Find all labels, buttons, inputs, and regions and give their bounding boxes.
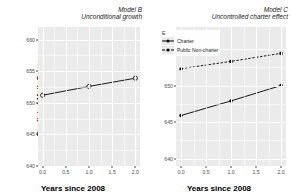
y-axis-tick-mark: [174, 158, 176, 159]
x-axis-tick-label: 0.5: [202, 169, 209, 175]
y-axis-tick-mark: [36, 166, 38, 167]
x-axis-tick-mark: [112, 166, 113, 168]
legend-label-public-non-charter: Public Non-charter: [177, 48, 218, 53]
y-axis-tick-label: 640: [164, 156, 173, 162]
x-axis-tick-mark: [135, 166, 136, 168]
x-axis-tick-mark: [89, 166, 90, 168]
x-axis-tick-label: 1.5: [252, 169, 259, 175]
grid-line-vertical-major: [231, 27, 232, 166]
panel-b-title: Model B: [81, 6, 142, 13]
grid-line-vertical-minor: [244, 27, 245, 166]
y-axis-tick-mark: [174, 122, 176, 123]
grid-line-vertical-minor: [124, 27, 125, 166]
panel-c-subtitle: Uncontrolled charter effect: [212, 13, 288, 20]
x-axis-tick-label: 0.0: [39, 169, 46, 175]
y-axis-tick-mark: [174, 85, 176, 86]
y-axis-tick-label: 645: [26, 131, 35, 137]
grid-line-vertical-major: [66, 27, 67, 166]
x-axis-tick-label: 0.0: [177, 169, 184, 175]
legend-key-dashed-icon: [162, 46, 174, 54]
y-axis-tick-mark: [36, 71, 38, 72]
grid-line-vertical-major: [112, 27, 113, 166]
x-axis-tick-mark: [256, 166, 257, 168]
legend-item-charter[interactable]: Charter: [162, 37, 218, 45]
legend-label-charter: Charter: [177, 39, 194, 44]
x-axis-tick-mark: [181, 166, 182, 168]
grid-line-vertical-minor: [269, 27, 270, 166]
y-axis-tick-mark: [36, 39, 38, 40]
x-axis-tick-mark: [231, 166, 232, 168]
x-axis-tick-mark: [206, 166, 207, 168]
grid-line-vertical-minor: [54, 27, 55, 166]
x-axis-tick-label: 0.5: [62, 169, 69, 175]
panel-c-title-block: Model C Uncontrolled charter effect: [212, 6, 288, 21]
grid-line-vertical-minor: [101, 27, 102, 166]
legend-item-public-non-charter[interactable]: Public Non-charter: [162, 46, 218, 54]
legend-title: E: [162, 31, 218, 36]
figure-root: Model B Unconditional growth Predicted M…: [0, 0, 292, 195]
panel-c-legend: E Charter Public Non-charter: [160, 30, 220, 56]
x-axis-tick-label: 1.0: [85, 169, 92, 175]
y-axis-tick-label: 660: [26, 37, 35, 43]
grid-line-vertical-minor: [77, 27, 78, 166]
panel-b-title-block: Model B Unconditional growth: [81, 6, 142, 21]
panel-c-title: Model C: [212, 6, 288, 13]
panel-b-plot-area: 6406456506556600.00.51.01.52.0: [38, 27, 140, 166]
x-axis-tick-label: 2.0: [277, 169, 284, 175]
grid-line-vertical-major: [281, 27, 282, 166]
grid-line-vertical-major: [89, 27, 90, 166]
y-axis-tick-mark: [36, 134, 38, 135]
y-axis-tick-label: 655: [26, 68, 35, 74]
y-axis-tick-label: 650: [26, 100, 35, 106]
panel-model-b: Model B Unconditional growth Predicted M…: [0, 0, 146, 195]
x-axis-tick-mark: [281, 166, 282, 168]
panel-model-c: Model C Uncontrolled charter effect Pred…: [146, 0, 292, 195]
grid-line-vertical-major: [135, 27, 136, 166]
panel-b-subtitle: Unconditional growth: [81, 13, 142, 20]
grid-line-vertical-major: [43, 27, 44, 166]
x-axis-tick-label: 1.5: [109, 169, 116, 175]
grid-line-vertical-major: [256, 27, 257, 166]
panel-b-x-axis-label: Years since 2008: [0, 184, 146, 193]
x-axis-tick-label: 1.0: [227, 169, 234, 175]
y-axis-tick-label: 640: [26, 163, 35, 169]
legend-key-solid-icon: [162, 37, 174, 45]
panel-c-x-axis-label: Years since 2008: [146, 184, 292, 193]
x-axis-tick-mark: [42, 166, 43, 168]
x-axis-tick-mark: [65, 166, 66, 168]
x-axis-tick-label: 2.0: [132, 169, 139, 175]
y-axis-tick-mark: [36, 102, 38, 103]
y-axis-tick-label: 650: [164, 83, 173, 89]
y-axis-tick-label: 645: [164, 119, 173, 125]
